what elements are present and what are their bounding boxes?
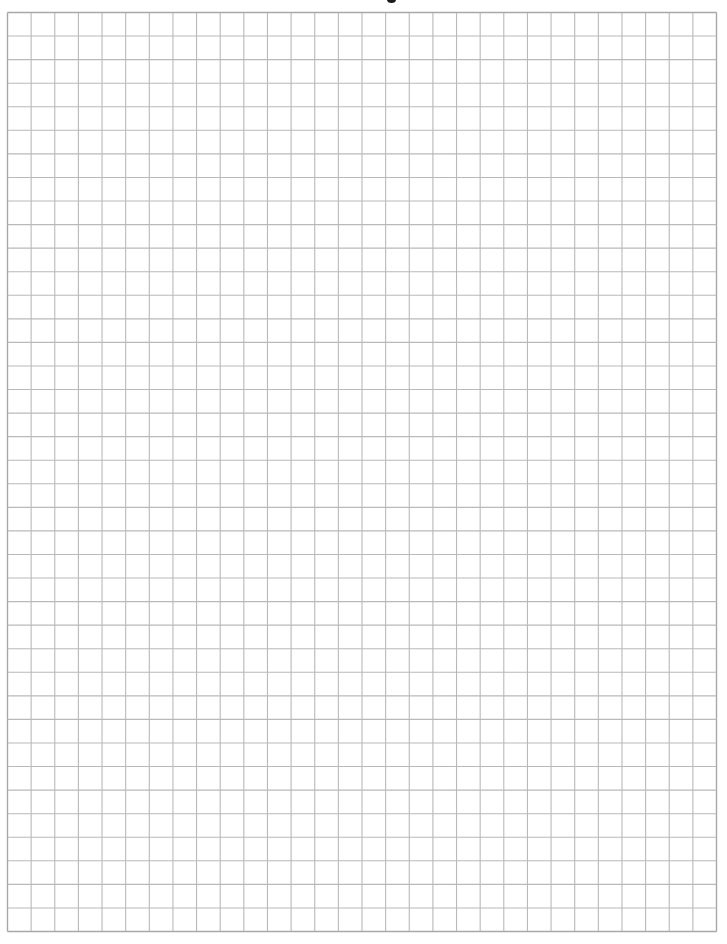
- grid: [0, 0, 727, 944]
- graph-paper-page: [0, 0, 727, 944]
